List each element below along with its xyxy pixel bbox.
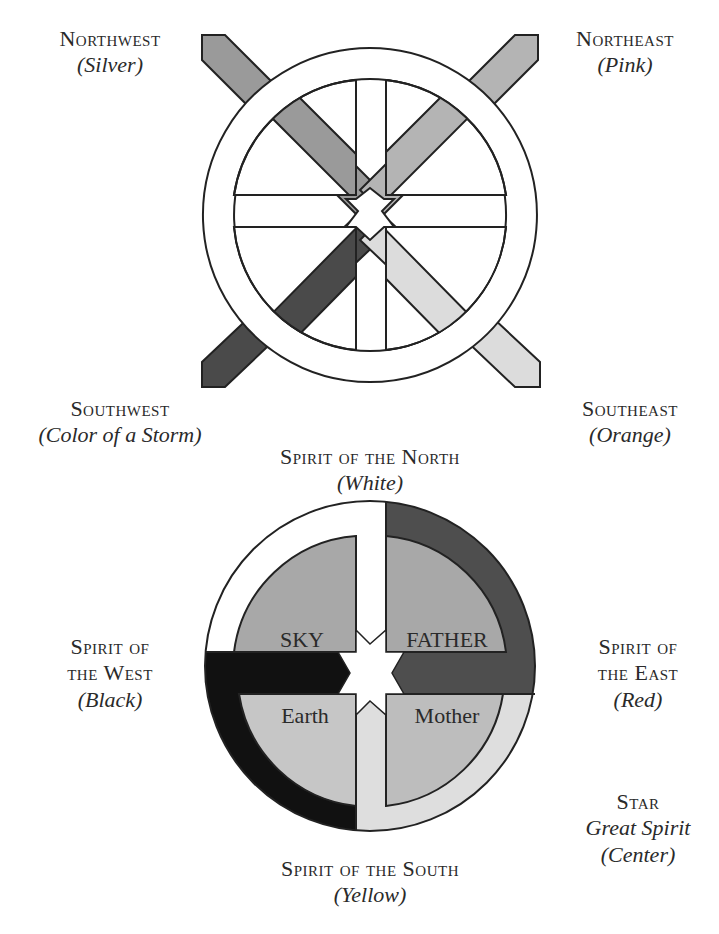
- west-title-line2: the West: [50, 660, 170, 686]
- label-southeast: Southeast (Orange): [560, 396, 700, 449]
- southeast-title: Southeast: [560, 396, 700, 422]
- label-northwest: Northwest (Silver): [40, 26, 180, 79]
- star-title: Star: [578, 789, 698, 815]
- east-color: (Red): [578, 687, 698, 713]
- northeast-color: (Pink): [560, 52, 690, 78]
- quadrant-sky-text: SKY: [280, 627, 324, 652]
- south-title: Spirit of the South: [245, 856, 495, 882]
- label-spirit-north: Spirit of the North (White): [245, 444, 495, 497]
- west-title-line1: Spirit of: [50, 634, 170, 660]
- label-southwest: Southwest (Color of a Storm): [20, 396, 220, 449]
- northwest-color: (Silver): [40, 52, 180, 78]
- east-title-line2: the East: [578, 660, 698, 686]
- label-star-center: Star Great Spirit (Center): [578, 789, 698, 868]
- northeast-title: Northeast: [560, 26, 690, 52]
- quadrant-father-text: FATHER: [406, 627, 488, 652]
- star-subtitle: Great Spirit: [578, 815, 698, 841]
- south-color: (Yellow): [245, 882, 495, 908]
- north-title: Spirit of the North: [245, 444, 495, 470]
- northwest-title: Northwest: [40, 26, 180, 52]
- north-color: (White): [245, 470, 495, 496]
- southwest-color: (Color of a Storm): [20, 422, 220, 448]
- southeast-color: (Orange): [560, 422, 700, 448]
- quadrant-earth-text: Earth: [281, 703, 329, 728]
- label-spirit-west: Spirit of the West (Black): [50, 634, 170, 713]
- southwest-title: Southwest: [20, 396, 220, 422]
- star-color: (Center): [578, 842, 698, 868]
- label-northeast: Northeast (Pink): [560, 26, 690, 79]
- west-color: (Black): [50, 687, 170, 713]
- quadrant-mother-text: Mother: [415, 703, 480, 728]
- label-spirit-south: Spirit of the South (Yellow): [245, 856, 495, 909]
- label-spirit-east: Spirit of the East (Red): [578, 634, 698, 713]
- east-title-line1: Spirit of: [578, 634, 698, 660]
